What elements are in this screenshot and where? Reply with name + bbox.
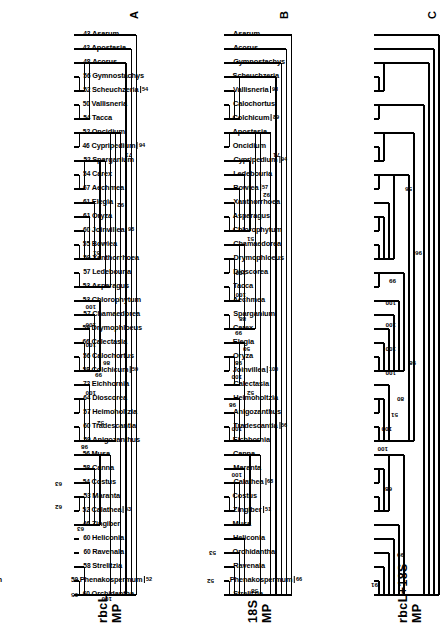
- tip-label: Vallisneria93: [233, 86, 302, 94]
- tip-label: Anigozanthus: [233, 408, 302, 416]
- tip-label: Oncidium: [233, 142, 302, 150]
- tip-taxon-name: Heimoholtzia: [233, 393, 278, 402]
- tip-label: 44 Drymophloeus: [0, 282, 2, 290]
- tip-support-bracket: 51: [263, 506, 271, 513]
- tip-label: 43 Heliconia: [0, 534, 2, 542]
- tip-label: 43 Sparganium: [0, 310, 2, 318]
- tip-label: 55 Bowiea: [83, 240, 152, 248]
- tip-taxon-name: Dioscorea: [92, 393, 127, 402]
- tip-label: Chamaedorea: [233, 240, 302, 248]
- tip-taxon-name: Strelitzia: [92, 561, 122, 570]
- tip-label: 59 Phenakospermum52: [83, 576, 152, 584]
- tip-label: 59 Drymophloeus: [83, 324, 152, 332]
- tip-label: Gymnostachys: [233, 58, 302, 66]
- tip-number: 48: [83, 58, 92, 65]
- tip-taxon-name: Xanthorrhoea: [92, 253, 139, 262]
- tip-taxon-name: Tradescantia: [233, 421, 277, 430]
- tip-taxon-name: Carex: [92, 169, 112, 178]
- node-support-value: 100: [386, 300, 396, 307]
- tip-taxon-name: Canna: [233, 449, 255, 458]
- tip-number: 67: [83, 184, 92, 191]
- tip-taxon-name: Ledebouria: [233, 169, 272, 178]
- tip-label: 43 Orchidantha: [0, 548, 2, 556]
- tip-label: Aechmea: [233, 296, 302, 304]
- tip-taxon-name: Gymnostachys: [233, 57, 285, 66]
- node-support-value: 100: [386, 322, 396, 329]
- tip-label: Heliconia: [233, 534, 302, 542]
- tip-taxon-name: Asparagus: [92, 281, 129, 290]
- tip-taxon-name: Aechmea: [233, 295, 265, 304]
- tip-label: Colchicum89: [233, 114, 302, 122]
- tip-taxon-name: Phenakospermum: [80, 575, 143, 584]
- tip-label: 57 Chamaedorea: [83, 310, 152, 318]
- tip-label: Asarum: [233, 30, 302, 38]
- node-support-value: 56: [405, 186, 412, 193]
- tip-support-bracket: 100: [267, 366, 278, 373]
- tip-taxon-name: Acorus: [233, 43, 258, 52]
- tip-taxon-name: Drymophloeus: [233, 253, 284, 262]
- figure-canvas: rbcL MP A 45 Strelitzia46 Phenakospermum…: [0, 0, 448, 629]
- tip-label: 60 Ravenala: [83, 548, 152, 556]
- node-support-value: 62: [55, 504, 62, 511]
- tip-taxon-name: Eichhornia: [92, 379, 129, 388]
- tip-taxon-name: Elegia: [92, 197, 113, 206]
- tip-number: 60: [83, 534, 92, 541]
- tip-label: 61 Oryza: [83, 212, 152, 220]
- tip-taxon-name: Eichhornia: [233, 435, 270, 444]
- tip-taxon-name: Tacca: [92, 113, 112, 122]
- tip-number: 46: [83, 520, 92, 527]
- tip-taxon-name: Musa: [92, 449, 111, 458]
- tip-label: 52 Oncidium: [83, 128, 152, 136]
- tip-label: Maranta: [233, 464, 302, 472]
- node-support-value: 51: [391, 412, 398, 419]
- tip-label: Bowiea57: [233, 184, 302, 192]
- tip-taxon-name: Musa: [233, 519, 252, 528]
- tip-taxon-name: Zingiber: [233, 505, 261, 514]
- tip-taxon-name: Strelitzia: [233, 589, 263, 598]
- tip-label: 44 Xanthorrhoea: [0, 212, 2, 220]
- tip-label: 52 Scheuchzeria54: [83, 86, 152, 94]
- tip-taxon-name: Oryza: [233, 351, 253, 360]
- tip-number: 52: [83, 86, 92, 93]
- tip-number: 52: [83, 156, 92, 163]
- tip-taxon-name: Bowiea: [92, 239, 117, 248]
- node-support-value: 98: [409, 360, 416, 367]
- tip-number: 42: [83, 44, 92, 51]
- tip-label: 46 Zingiber: [83, 520, 152, 528]
- tip-label: 42 Oncidium: [0, 170, 2, 178]
- tip-label: 52 Sparganium: [83, 156, 152, 164]
- tip-label: 46 Dioscorea: [0, 128, 2, 136]
- tip-label: Costus: [233, 492, 302, 500]
- tip-label: 48 Asarum: [0, 30, 2, 38]
- tip-label: 42 Anigozanthus: [0, 408, 2, 416]
- tip-label: 54 Costus: [83, 478, 152, 486]
- tip-label: 56 Calochortus: [83, 352, 152, 360]
- tip-taxon-name: Calectasia: [233, 379, 269, 388]
- tip-taxon-name: Gymnostachys: [92, 71, 144, 80]
- tip-taxon-name: Elegia: [233, 337, 254, 346]
- tip-taxon-name: Bowiea: [233, 183, 258, 192]
- tip-label: 60 Joinvillea98: [83, 226, 152, 234]
- tip-taxon-name: Orchidantha: [233, 547, 275, 556]
- node-support-value: 53: [209, 550, 216, 557]
- tip-label: Strelitzia: [233, 590, 302, 598]
- tip-label: Cypripedium94: [233, 156, 302, 164]
- tip-label: 72 Eichhornia: [83, 380, 152, 388]
- tip-number: 54: [83, 478, 92, 485]
- tip-taxon-name: Costus: [92, 477, 116, 486]
- tip-label: 54 Carex: [83, 170, 152, 178]
- tip-support-bracket: 68: [265, 478, 273, 485]
- node-support-value: 100: [386, 346, 396, 353]
- tip-label: 42 Calathea: [0, 492, 2, 500]
- tip-label: 42 Bowiea: [0, 226, 2, 234]
- tip-label: 56 Gymnostachys: [83, 72, 152, 80]
- tip-taxon-name: Colchicum: [92, 365, 129, 374]
- tip-label: 43 Aechmea: [0, 296, 2, 304]
- node-support-value: 99: [397, 552, 404, 559]
- tip-number: 64: [83, 394, 92, 401]
- tip-taxon-name: Scheuchzeria: [233, 71, 279, 80]
- tip-label: 43 Ledebouria56: [0, 240, 2, 248]
- panel-b-title: 18S MP: [246, 600, 274, 623]
- panel-c-title: rbcL+18S MP: [396, 563, 424, 623]
- tip-taxon-name: Calectasia: [92, 337, 128, 346]
